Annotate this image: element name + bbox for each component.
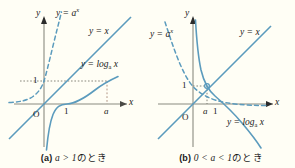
curve-label-logarithm-b: y = loga x — [227, 118, 264, 128]
y-axis-arrow-a — [41, 16, 47, 24]
caption-tag-b: (b) — [179, 153, 191, 163]
origin-label-b: O — [182, 113, 189, 122]
exponent-x-a: x — [76, 6, 79, 13]
tick-x-one-b: 1 — [213, 107, 218, 116]
origin-label-a: O — [33, 110, 40, 119]
curve-label-logarithm-a: y = loga x — [81, 60, 118, 70]
tick-y-one-b: 1 — [182, 81, 187, 90]
caption-jp-a: のとき — [77, 153, 108, 163]
curve-exponential-a — [9, 12, 62, 103]
tick-y-one-a: 1 — [33, 76, 38, 85]
caption-jp-b: のとき — [232, 153, 263, 163]
x-axis-arrow-a — [120, 101, 127, 107]
figure-exponential-logarithm-graphs: y x y = ax y = x y = loga x 1 1 a O (a) … — [0, 0, 295, 168]
log-base-a: a — [109, 63, 112, 70]
x-axis-label-b: x — [275, 98, 279, 108]
x-axis-arrow-b — [266, 101, 273, 107]
curve-label-exponential-b: y = ax — [150, 30, 173, 40]
curve-label-identity-a: y = x — [89, 27, 109, 37]
caption-expr-b: 0 < a < 1 — [194, 153, 232, 163]
panel-b-plot — [147, 0, 295, 168]
caption-tag-a: (a) — [41, 153, 53, 163]
panel-b: y x y = ax y = x y = loga x 1 a 1 O (b) … — [147, 0, 295, 168]
curve-label-exponential-a: y = ax — [56, 9, 79, 19]
tick-x-one-a: 1 — [64, 107, 69, 116]
curve-label-identity-b: y = x — [240, 28, 260, 38]
tick-x-a-a: a — [104, 107, 109, 116]
caption-a: (a) a > 1のとき — [0, 150, 148, 164]
tick-x-a-b: a — [203, 107, 208, 116]
exponent-x-b: x — [170, 27, 173, 34]
panel-a-plot — [0, 0, 148, 168]
caption-b: (b) 0 < a < 1のとき — [147, 150, 295, 164]
panel-a: y x y = ax y = x y = loga x 1 1 a O (a) … — [0, 0, 148, 168]
x-axis-label-a: x — [129, 98, 133, 108]
axes-group-a — [14, 16, 127, 147]
log-base-b: a — [255, 121, 258, 128]
y-axis-label-a: y — [36, 9, 40, 19]
caption-expr-a: a > 1 — [55, 153, 77, 163]
y-axis-label-b: y — [185, 9, 189, 19]
curve-identity-a — [9, 17, 131, 139]
